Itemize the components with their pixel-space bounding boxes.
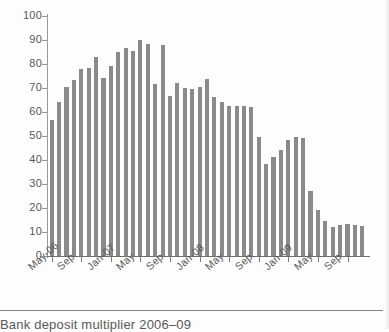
bar <box>301 138 305 256</box>
y-axis-tick-label: 30 <box>0 178 42 189</box>
bar <box>168 96 172 256</box>
x-axis-tick-mark <box>200 257 201 262</box>
bar <box>87 68 91 256</box>
bar <box>235 106 239 256</box>
x-axis-tick-mark <box>52 257 53 262</box>
x-axis-tick-mark <box>348 257 349 262</box>
bar <box>124 48 128 256</box>
y-axis-tick-label: 80 <box>0 58 42 69</box>
bar <box>294 137 298 256</box>
bar <box>79 69 83 256</box>
bar <box>220 102 224 256</box>
y-axis-tick-mark <box>42 208 47 209</box>
bar <box>109 66 113 256</box>
y-axis-tick-label: 100 <box>0 10 42 21</box>
bar <box>264 164 268 256</box>
bar <box>353 225 357 256</box>
bar <box>94 57 98 256</box>
y-axis-tick-label: 10 <box>0 226 42 237</box>
x-axis-tick-mark <box>288 257 289 262</box>
x-axis-tick-mark <box>140 257 141 262</box>
bar <box>286 140 290 256</box>
bar <box>146 44 150 256</box>
bar <box>323 221 327 256</box>
bar <box>57 102 61 256</box>
y-axis-tick-mark <box>42 136 47 137</box>
bar <box>227 106 231 256</box>
bar <box>198 87 202 256</box>
caption-divider <box>0 310 383 311</box>
y-axis-tick-label: 90 <box>0 34 42 45</box>
bar <box>345 224 349 256</box>
bar <box>308 191 312 256</box>
bar <box>64 87 68 256</box>
y-axis-tick-label: 70 <box>0 82 42 93</box>
y-axis-tick-mark <box>42 232 47 233</box>
x-axis-tick-mark <box>81 257 82 262</box>
y-axis-tick-mark <box>42 16 47 17</box>
y-axis-tick-mark <box>42 40 47 41</box>
bar <box>316 210 320 256</box>
bar <box>212 97 216 256</box>
bar <box>257 137 261 256</box>
bar <box>101 78 105 256</box>
y-axis-tick-mark <box>42 88 47 89</box>
bar <box>138 40 142 256</box>
bar <box>183 88 187 256</box>
bar <box>338 225 342 256</box>
bar <box>72 80 76 256</box>
y-axis-tick-label: 50 <box>0 130 42 141</box>
bar <box>131 51 135 256</box>
bar <box>249 107 253 256</box>
y-axis-tick-mark <box>42 160 47 161</box>
y-axis-tick-mark <box>42 184 47 185</box>
y-axis-tick-mark <box>42 112 47 113</box>
plot-area <box>48 16 366 256</box>
bar <box>242 106 246 256</box>
y-axis-tick-label: 20 <box>0 202 42 213</box>
bar <box>153 84 157 256</box>
bar <box>161 45 165 256</box>
x-axis-tick-mark <box>111 257 112 262</box>
bar <box>116 52 120 256</box>
bar <box>175 83 179 256</box>
bar-chart: 1009080706050403020100 May-06SepJan-07Ma… <box>0 0 389 300</box>
y-axis-tick-label: 60 <box>0 106 42 117</box>
x-axis-tick-mark <box>259 257 260 262</box>
scan-edge-shadow <box>384 0 389 329</box>
y-axis-tick-label: 40 <box>0 154 42 165</box>
x-axis-tick-mark <box>229 257 230 262</box>
bar <box>50 120 54 256</box>
x-axis-tick-mark <box>170 257 171 262</box>
figure-caption: Bank deposit multiplier 2006–09 <box>0 317 383 332</box>
bar <box>205 79 209 256</box>
bar <box>271 157 275 256</box>
y-axis-tick-mark <box>42 64 47 65</box>
bar <box>279 150 283 256</box>
x-axis-tick-mark <box>318 257 319 262</box>
bar <box>190 89 194 256</box>
bar <box>360 226 364 256</box>
